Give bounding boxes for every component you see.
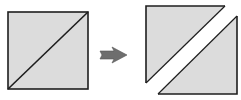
right-arrow-icon [100, 47, 127, 63]
square-with-diagonal [8, 12, 88, 89]
separated-triangles [146, 6, 237, 94]
diagram-canvas [0, 0, 241, 100]
